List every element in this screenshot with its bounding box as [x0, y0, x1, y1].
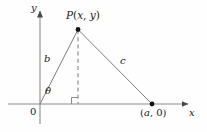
segment-c: [78, 30, 152, 105]
point-a-close-paren: ): [163, 107, 167, 118]
right-angle-marker: [72, 98, 79, 105]
y-axis-label: y: [31, 3, 37, 13]
x-axis-label: x: [189, 108, 195, 118]
point-p-close-paren: ): [96, 9, 100, 21]
point-p-comma: ,: [83, 9, 90, 21]
point-a-marker: [150, 102, 155, 107]
segment-c-label: c: [120, 56, 126, 66]
origin-label: 0: [30, 107, 36, 117]
theta-angle-label: θ: [45, 86, 51, 96]
point-p-marker: [76, 27, 81, 32]
point-a-label: (a, 0): [140, 108, 167, 118]
geometry-figure: y x 0 P(x, y) b c θ (a, 0): [0, 0, 207, 132]
point-p-label: P(x, y): [66, 10, 100, 21]
segment-b-label: b: [44, 54, 50, 64]
